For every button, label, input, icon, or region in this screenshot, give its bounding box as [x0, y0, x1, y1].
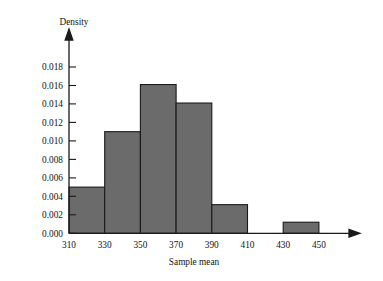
- y-tick-label-7: 0.014: [42, 99, 63, 109]
- y-tick-label-6: 0.012: [42, 118, 63, 128]
- y-tick-label-9: 0.018: [42, 62, 63, 72]
- x-tick-label-7: 450: [312, 240, 326, 250]
- y-tick-label-1: 0.002: [42, 210, 63, 220]
- y-tick-label-2: 0.004: [42, 192, 63, 202]
- y-tick-label-3: 0.006: [42, 173, 63, 183]
- x-tick-label-4: 390: [205, 240, 219, 250]
- y-tick-label-4: 0.008: [42, 155, 63, 165]
- y-tick-label-8: 0.016: [42, 81, 63, 91]
- bar-310-330: [69, 187, 105, 233]
- y-axis-title: Density: [60, 17, 89, 27]
- bar-350-370: [140, 85, 176, 234]
- y-tick-label-5: 0.010: [42, 136, 63, 146]
- x-tick-label-0: 310: [62, 240, 76, 250]
- x-axis-title: Sample mean: [169, 257, 220, 267]
- x-tick-label-2: 350: [133, 240, 147, 250]
- x-tick-label-5: 410: [241, 240, 255, 250]
- y-tick-label-0: 0.000: [42, 229, 63, 239]
- histogram-svg: 0.000 0.002 0.004 0.006 0.008 0.010 0.01…: [0, 0, 383, 281]
- bar-430-450: [283, 222, 319, 233]
- histogram-figure: 0.000 0.002 0.004 0.006 0.008 0.010 0.01…: [0, 0, 383, 281]
- x-tick-label-6: 430: [276, 240, 290, 250]
- bar-370-390: [176, 103, 212, 233]
- x-tick-label-1: 330: [98, 240, 112, 250]
- bar-330-350: [105, 132, 141, 234]
- bar-390-410: [212, 205, 248, 234]
- x-tick-label-3: 370: [169, 240, 183, 250]
